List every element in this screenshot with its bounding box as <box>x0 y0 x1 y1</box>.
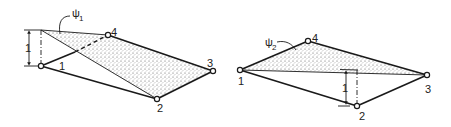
left-node-4-label: 4 <box>111 26 117 38</box>
left-edge-1-4-solid <box>41 52 75 66</box>
left-node-2 <box>154 96 159 101</box>
right-psi-subscript: 2 <box>272 43 277 52</box>
right-edge-2-3 <box>357 75 427 106</box>
right-node-2 <box>354 103 359 108</box>
right-node-3-label: 3 <box>425 83 431 95</box>
right-node-4 <box>305 38 310 43</box>
left-psi-subscript: 1 <box>79 14 84 23</box>
left-node-1-label: 1 <box>59 60 65 72</box>
right-node-1-label: 1 <box>238 75 244 87</box>
left-shaded-surface <box>41 30 213 99</box>
right-dimension-label: 1 <box>342 82 348 94</box>
left-dimension-label: 1 <box>25 42 31 54</box>
left-figure: 1 ψ 1 1 2 3 4 <box>24 7 216 114</box>
left-node-4 <box>105 32 110 37</box>
shape-function-diagram: 1 ψ 1 1 2 3 4 1 ψ 2 <box>0 0 451 127</box>
left-node-1 <box>38 63 43 68</box>
right-node-3 <box>424 72 429 77</box>
left-node-3 <box>210 68 215 73</box>
right-node-2-label: 2 <box>359 110 365 122</box>
left-node-3-label: 3 <box>207 57 213 69</box>
right-node-1 <box>237 67 242 72</box>
right-node-4-label: 4 <box>312 32 318 44</box>
right-dimension-tick-top <box>340 70 358 71</box>
left-node-2-label: 2 <box>157 102 163 114</box>
right-edge-1-2 <box>240 70 357 106</box>
right-figure: 1 ψ 2 1 2 3 4 <box>237 32 431 122</box>
